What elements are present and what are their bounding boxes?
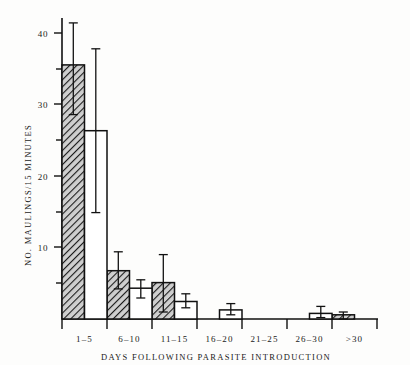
x-category-label-over-30: >30 (346, 334, 363, 344)
x-category-label-21-25: 21–25 (251, 334, 279, 344)
y-ticklabel-20: 20 (38, 172, 48, 182)
y-ticklabel-40: 40 (38, 29, 48, 39)
mauling-histogram-svg: 40 30 20 10 NO. MAULINGS/15 MINUTES 1–5 … (0, 0, 410, 365)
y-ticklabel-30: 30 (38, 100, 48, 110)
x-category-label-6-10: 6–10 (118, 334, 140, 344)
x-axis-title: DAYS FOLLOWING PARASITE INTRODUCTION (101, 352, 331, 362)
chart-figure: 40 30 20 10 NO. MAULINGS/15 MINUTES 1–5 … (0, 0, 410, 365)
x-category-label-1-5: 1–5 (76, 334, 93, 344)
x-category-label-11-15: 11–15 (161, 334, 189, 344)
x-category-label-26-30: 26–30 (296, 334, 324, 344)
y-ticklabel-10: 10 (38, 243, 48, 253)
x-category-label-16-20: 16–20 (206, 334, 234, 344)
y-axis-title: NO. MAULINGS/15 MINUTES (23, 124, 33, 266)
